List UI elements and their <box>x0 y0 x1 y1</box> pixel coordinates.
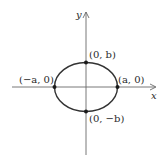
point-right <box>116 85 120 89</box>
x-axis-label: x <box>151 90 157 101</box>
label-top: (0, b) <box>89 49 116 60</box>
y-axis <box>83 12 89 155</box>
label-right: (a, 0) <box>118 74 145 85</box>
y-axis-label: y <box>75 9 82 20</box>
ellipse-diagram: y x (0, b) (0, −b) (−a, 0) (a, 0) <box>0 0 166 158</box>
point-bottom <box>84 110 88 114</box>
label-bottom: (0, −b) <box>89 113 124 124</box>
point-left <box>53 85 57 89</box>
point-top <box>84 61 88 65</box>
label-left: (−a, 0) <box>19 74 54 85</box>
